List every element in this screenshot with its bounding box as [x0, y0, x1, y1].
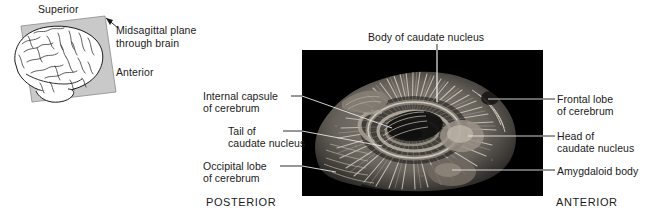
inset-label-superior: Superior: [38, 3, 79, 16]
callout-internal-capsule-of-cerebrum: Internal capsule of cerebrum: [203, 90, 278, 114]
brain-dissection-photograph: [302, 50, 543, 196]
callout-tail-of-caudate-line1: Tail of: [228, 125, 305, 137]
callout-internal-capsule-line1: Internal capsule: [203, 90, 278, 102]
inset-label-midsagittal-line1: Midsagittal plane: [116, 24, 197, 37]
orientation-label-anterior: ANTERIOR: [556, 196, 618, 208]
anatomy-figure: Superior Midsagittal plane through brain…: [0, 0, 651, 224]
callout-frontal-lobe-line2: of cerebrum: [557, 105, 614, 117]
inset-label-midsagittal-plane: Midsagittal plane through brain: [116, 24, 197, 49]
callout-head-of-caudate-line2: caudate nucleus: [557, 142, 634, 154]
callout-tail-of-caudate-line2: caudate nucleus: [228, 137, 305, 149]
orientation-label-posterior: POSTERIOR: [206, 196, 276, 208]
callout-amygdaloid-body-line1: Amygdaloid body: [557, 165, 638, 177]
callout-frontal-lobe-line1: Frontal lobe: [557, 93, 614, 105]
callout-internal-capsule-line2: of cerebrum: [203, 102, 278, 114]
inset-label-midsagittal-line2: through brain: [116, 37, 197, 50]
callout-head-of-caudate-line1: Head of: [557, 130, 634, 142]
midsagittal-leader-arrow: [106, 18, 113, 25]
head-of-caudate-highlight: [447, 125, 473, 143]
callout-occipital-lobe-of-cerebrum: Occipital lobe of cerebrum: [203, 160, 267, 184]
orientation-inset: Superior Midsagittal plane through brain…: [0, 0, 210, 112]
callout-head-of-caudate-nucleus: Head of caudate nucleus: [557, 130, 634, 154]
callout-frontal-lobe-of-cerebrum: Frontal lobe of cerebrum: [557, 93, 614, 117]
callout-body-of-caudate-nucleus: Body of caudate nucleus: [368, 31, 484, 43]
brain-photo-render: [302, 50, 543, 196]
inset-drawing: [0, 0, 210, 112]
callout-amygdaloid-body: Amygdaloid body: [557, 165, 638, 177]
callout-tail-of-caudate-nucleus: Tail of caudate nucleus: [228, 125, 305, 149]
callout-occipital-lobe-line1: Occipital lobe: [203, 160, 267, 172]
callout-occipital-lobe-line2: of cerebrum: [203, 172, 267, 184]
callout-body-of-caudate-nucleus-line1: Body of caudate nucleus: [368, 31, 484, 43]
inset-label-anterior: Anterior: [116, 66, 154, 79]
amygdaloid-body-highlight: [435, 163, 461, 177]
